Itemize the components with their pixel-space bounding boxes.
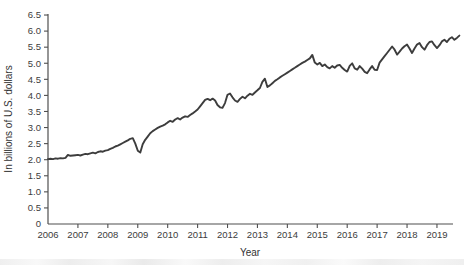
y-tick-label: 5.5 xyxy=(28,41,41,52)
y-tick-label: 4.5 xyxy=(28,74,41,85)
chart-canvas: 00.51.01.52.02.53.03.54.04.55.05.56.06.5… xyxy=(0,0,464,265)
x-tick-label: 2015 xyxy=(307,229,328,240)
x-tick-label: 2013 xyxy=(247,229,268,240)
y-tick-label: 0 xyxy=(36,218,41,229)
x-tick-label: 2018 xyxy=(396,229,417,240)
y-tick-label: 3.5 xyxy=(28,106,41,117)
y-axis: 00.51.01.52.02.53.03.54.04.55.05.56.06.5 xyxy=(28,9,48,229)
y-tick-label: 4.0 xyxy=(28,90,41,101)
screenshot-edge-artifact xyxy=(0,259,464,265)
y-tick-label: 0.5 xyxy=(28,202,41,213)
x-tick-label: 2011 xyxy=(187,229,207,240)
x-axis-title: Year xyxy=(240,247,261,258)
x-tick-label: 2014 xyxy=(277,229,298,240)
x-tick-label: 2009 xyxy=(127,229,148,240)
x-tick-label: 2006 xyxy=(37,229,58,240)
y-tick-label: 1.0 xyxy=(28,186,41,197)
y-tick-label: 1.5 xyxy=(28,170,41,181)
x-tick-label: 2019 xyxy=(426,229,447,240)
y-tick-label: 6.5 xyxy=(28,9,41,20)
line-chart: 00.51.01.52.02.53.03.54.04.55.05.56.06.5… xyxy=(0,0,464,265)
x-tick-label: 2017 xyxy=(367,229,388,240)
x-tick-label: 2008 xyxy=(97,229,118,240)
x-tick-label: 2010 xyxy=(157,229,178,240)
x-tick-label: 2016 xyxy=(337,229,358,240)
y-tick-label: 6.0 xyxy=(28,25,41,36)
x-tick-label: 2007 xyxy=(67,229,88,240)
data-line-series xyxy=(48,36,459,160)
x-tick-label: 2012 xyxy=(217,229,238,240)
y-axis-title: In billions of U.S. dollars xyxy=(3,65,14,172)
y-tick-label: 5.0 xyxy=(28,58,41,69)
y-tick-label: 2.5 xyxy=(28,138,41,149)
y-tick-label: 2.0 xyxy=(28,154,41,165)
y-tick-label: 3.0 xyxy=(28,122,41,133)
x-axis: 2006200720082009201020112012201320142015… xyxy=(37,224,453,240)
